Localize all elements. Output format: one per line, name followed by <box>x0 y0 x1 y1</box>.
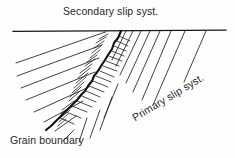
slip-system-diagram: Secondary slip syst. Primary slip syst. … <box>0 0 235 158</box>
free-surface-line <box>13 30 226 31</box>
label-secondary-slip-system: Secondary slip syst. <box>63 5 158 17</box>
pileup-right-group <box>60 36 130 124</box>
label-grain-boundary: Grain boundary <box>10 134 84 146</box>
secondary-slip-line-group <box>16 32 106 141</box>
